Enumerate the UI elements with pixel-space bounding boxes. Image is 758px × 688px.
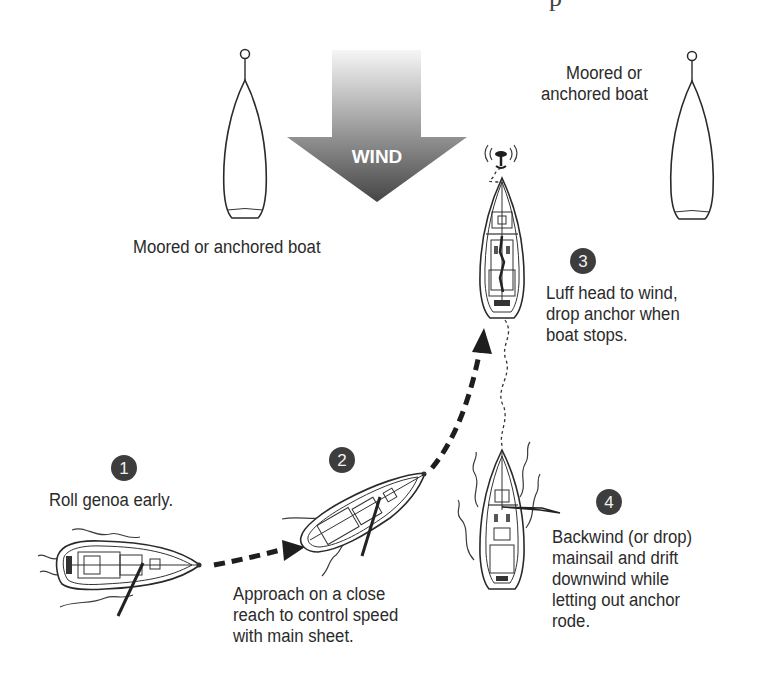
course-arrowhead-3 xyxy=(472,328,492,354)
course-line-2-to-3 xyxy=(432,350,480,468)
moored-boat-right xyxy=(671,52,714,220)
step-2-text-line2: reach to control speed xyxy=(233,604,398,625)
course-line-1-to-2 xyxy=(214,549,284,565)
step-3-text-line3: boat stops. xyxy=(546,324,628,345)
boat-step-4 xyxy=(458,442,560,589)
step-1-number: 1 xyxy=(119,459,128,478)
moored-boat-right-label-line1: Moored or xyxy=(566,62,642,83)
step-4-number: 4 xyxy=(604,493,613,512)
mooring-buoy-icon xyxy=(241,50,250,59)
anchoring-diagram: p Moored or anchored boat Moored or anch… xyxy=(0,0,758,688)
step-4-text-line5: rode. xyxy=(552,610,590,631)
step-4-text-line2: mainsail and drift xyxy=(552,547,678,568)
step-1-text-line1: Roll genoa early. xyxy=(49,489,173,510)
wind-arrow: WIND xyxy=(287,50,467,202)
step-2-text-line3: with main sheet. xyxy=(232,625,354,646)
moored-boat-right-label-line2: anchored boat xyxy=(541,83,648,104)
cropped-heading-fragment: p xyxy=(549,0,562,12)
anchor-icon xyxy=(485,145,517,168)
moored-boat-left-label: Moored or anchored boat xyxy=(133,236,321,257)
mooring-buoy-icon xyxy=(688,52,697,61)
step-2-number: 2 xyxy=(337,451,346,470)
boat-step-3 xyxy=(480,178,524,318)
step-4-text-line3: downwind while xyxy=(552,568,669,589)
step-4-text-line1: Backwind (or drop) xyxy=(552,526,692,547)
moored-boat-left xyxy=(224,50,267,219)
anchor-rode xyxy=(501,320,509,448)
step-3-number: 3 xyxy=(578,252,587,271)
step-3-text-line2: drop anchor when xyxy=(546,303,680,324)
anchor-rode-top xyxy=(489,168,501,184)
step-3-text-line1: Luff head to wind, xyxy=(546,282,678,303)
wind-label: WIND xyxy=(352,146,403,167)
boat-step-1 xyxy=(38,529,202,616)
step-4-text-line4: letting out anchor xyxy=(552,589,680,610)
step-2-text-line1: Approach on a close xyxy=(233,583,385,604)
boat-step-2 xyxy=(282,472,427,577)
